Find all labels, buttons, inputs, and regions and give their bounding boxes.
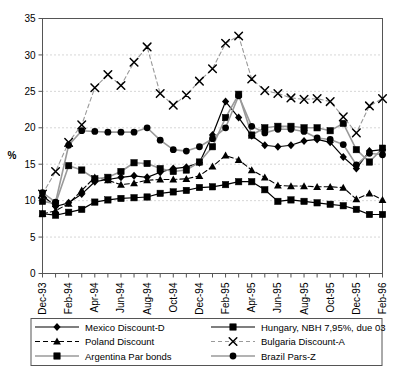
data-point-marker	[366, 159, 372, 165]
x-tick-label: Jun-95	[272, 282, 283, 313]
legend-label: Hungary, NBH 7,95%, due 03	[261, 322, 385, 333]
legend-label: Bulgaria Discount-A	[261, 336, 346, 347]
data-point-marker	[105, 174, 111, 180]
data-point-marker	[131, 195, 137, 201]
data-point-marker	[288, 197, 294, 203]
y-tick-label: 5	[30, 232, 36, 243]
data-point-marker	[65, 142, 72, 149]
x-tick-label: Oct-95	[325, 282, 336, 312]
data-point-marker	[353, 206, 359, 212]
x-tick-label: Jun-94	[115, 282, 126, 313]
data-point-marker	[144, 194, 150, 200]
data-point-marker	[353, 162, 360, 169]
x-tick-label: Apr-95	[246, 282, 257, 312]
y-tick-label: 0	[30, 268, 36, 279]
x-tick-label: Dec-93	[37, 282, 48, 315]
data-point-marker	[54, 353, 60, 359]
data-point-marker	[209, 184, 215, 190]
data-point-marker	[65, 209, 71, 215]
data-point-marker	[340, 120, 346, 126]
y-tick-label: 10	[24, 195, 36, 206]
data-point-marker	[39, 189, 46, 196]
data-point-marker	[314, 200, 320, 206]
data-point-marker	[183, 187, 189, 193]
data-point-marker	[170, 146, 177, 153]
data-point-marker	[340, 141, 347, 148]
data-point-marker	[196, 184, 202, 190]
data-point-marker	[79, 167, 85, 173]
data-point-marker	[248, 123, 255, 130]
line-chart: 05101520253035 Dec-93Feb-94Apr-94Jun-94A…	[0, 0, 414, 371]
data-point-marker	[170, 189, 176, 195]
data-point-marker	[327, 136, 334, 143]
data-point-marker	[78, 127, 85, 134]
x-tick-label: Feb-96	[377, 282, 388, 314]
data-point-marker	[157, 137, 164, 144]
data-point-marker	[118, 129, 125, 136]
data-point-marker	[183, 148, 190, 155]
data-point-marker	[340, 203, 346, 209]
data-point-marker	[249, 132, 255, 138]
data-point-marker	[249, 179, 255, 185]
data-point-marker	[91, 128, 98, 135]
data-point-marker	[288, 126, 295, 133]
data-point-marker	[327, 201, 333, 207]
data-point-marker	[275, 198, 281, 204]
data-point-marker	[144, 160, 150, 166]
data-point-marker	[157, 165, 163, 171]
y-tick-label: 15	[24, 159, 36, 170]
data-point-marker	[131, 129, 138, 136]
data-point-marker	[92, 176, 98, 182]
x-tick-label: Oct-94	[168, 282, 179, 312]
data-point-marker	[222, 114, 228, 120]
y-tick-label: 35	[24, 13, 36, 24]
data-point-marker	[39, 198, 45, 204]
legend-label: Mexico Discount-D	[85, 322, 165, 333]
data-point-marker	[379, 211, 385, 217]
y-tick-label: 25	[24, 86, 36, 97]
x-tick-label: Aug-95	[299, 282, 310, 315]
data-point-marker	[196, 159, 202, 165]
data-point-marker	[131, 160, 137, 166]
x-tick-label: Apr-94	[89, 282, 100, 312]
data-point-marker	[92, 199, 98, 205]
data-point-marker	[209, 135, 216, 142]
data-point-marker	[235, 92, 242, 99]
x-tick-label: Dec-95	[351, 282, 362, 315]
data-point-marker	[118, 168, 124, 174]
y-tick-label: 20	[24, 122, 36, 133]
data-point-marker	[222, 124, 229, 131]
data-point-marker	[301, 128, 308, 135]
data-point-marker	[314, 135, 321, 142]
data-point-marker	[183, 167, 189, 173]
data-point-marker	[118, 195, 124, 201]
legend-label: Poland Discount	[85, 336, 155, 347]
data-point-marker	[105, 197, 111, 203]
data-point-marker	[52, 199, 59, 206]
data-point-marker	[301, 198, 307, 204]
data-point-marker	[274, 126, 281, 133]
data-point-marker	[379, 151, 386, 158]
y-tick-label: 30	[24, 50, 36, 61]
data-point-marker	[262, 187, 268, 193]
data-point-marker	[209, 144, 215, 150]
x-tick-label: Feb-95	[220, 282, 231, 314]
legend-label: Brazil Pars-Z	[261, 351, 316, 362]
data-point-marker	[222, 181, 228, 187]
data-point-marker	[261, 129, 268, 136]
data-point-marker	[379, 145, 385, 151]
x-tick-label: Aug-94	[142, 282, 153, 315]
data-point-marker	[170, 168, 176, 174]
data-point-marker	[230, 353, 237, 360]
chart-container: 05101520253035 Dec-93Feb-94Apr-94Jun-94A…	[0, 0, 414, 371]
data-point-marker	[104, 129, 111, 136]
x-tick-label: Feb-94	[63, 282, 74, 314]
data-point-marker	[196, 143, 203, 150]
data-point-marker	[79, 206, 85, 212]
legend-label: Argentina Par bonds	[85, 351, 172, 362]
data-point-marker	[144, 124, 151, 131]
data-point-marker	[39, 211, 45, 217]
data-point-marker	[235, 179, 241, 185]
data-point-marker	[230, 324, 236, 330]
data-point-marker	[314, 125, 320, 131]
